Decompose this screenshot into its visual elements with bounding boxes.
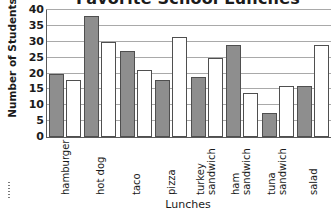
bar bbox=[172, 37, 187, 137]
x-axis-category-label: tunasandwich bbox=[266, 148, 288, 195]
plot-area bbox=[46, 10, 331, 138]
x-axis-title: Lunches bbox=[46, 198, 330, 211]
bar-group bbox=[296, 10, 332, 137]
bar bbox=[120, 51, 135, 137]
bar bbox=[49, 74, 64, 138]
y-axis-tick-label: 20 bbox=[29, 69, 44, 79]
bar bbox=[314, 45, 329, 137]
x-axis-category-labels: hamburgerhot dogtacopizzaturkeysandwichh… bbox=[46, 139, 330, 197]
bar-group bbox=[47, 10, 83, 137]
bar bbox=[279, 86, 294, 137]
x-axis-category-label: turkeysandwich bbox=[195, 148, 217, 195]
bar bbox=[155, 80, 170, 137]
bar-group bbox=[225, 10, 261, 137]
x-axis-category-label: pizza bbox=[166, 169, 177, 195]
x-axis-category-label: hamburger bbox=[60, 140, 71, 195]
chart-title: Favorite School Lunches bbox=[46, 0, 330, 5]
y-axis-tick-label: 10 bbox=[29, 100, 44, 110]
bar-group bbox=[154, 10, 190, 137]
x-axis-category-label: salad bbox=[308, 168, 319, 195]
y-axis-tick-label: 25 bbox=[29, 53, 44, 63]
bar bbox=[84, 16, 99, 137]
bar bbox=[137, 70, 152, 137]
bar bbox=[243, 93, 258, 137]
bar-group bbox=[260, 10, 296, 137]
bar-group bbox=[189, 10, 225, 137]
bar bbox=[226, 45, 241, 137]
bar bbox=[208, 58, 223, 137]
bar bbox=[66, 80, 81, 137]
bar-chart: Favorite School Lunches Number of Studen… bbox=[0, 0, 333, 216]
y-axis-tick-label: 40 bbox=[29, 5, 44, 15]
x-axis-category-label: hot dog bbox=[95, 157, 106, 195]
x-axis-category-label: taco bbox=[131, 173, 142, 195]
bar-group bbox=[83, 10, 119, 137]
x-axis-category-label: hamsandwich bbox=[230, 148, 252, 195]
bar bbox=[191, 77, 206, 137]
bar bbox=[262, 113, 277, 137]
y-axis-tick-label: 30 bbox=[29, 37, 44, 47]
bar-group bbox=[118, 10, 154, 137]
bar bbox=[297, 86, 312, 137]
page-edge-artifact bbox=[8, 182, 10, 198]
y-axis-tick-label: 15 bbox=[29, 84, 44, 94]
y-axis-title: Number of Students bbox=[6, 0, 18, 118]
y-axis-tick-labels: 0510152025303540 bbox=[18, 0, 44, 140]
y-axis-tick-label: 35 bbox=[29, 21, 44, 31]
y-axis-tick-label: 0 bbox=[36, 132, 44, 142]
y-axis-tick-label: 5 bbox=[36, 116, 44, 126]
bar bbox=[101, 42, 116, 137]
